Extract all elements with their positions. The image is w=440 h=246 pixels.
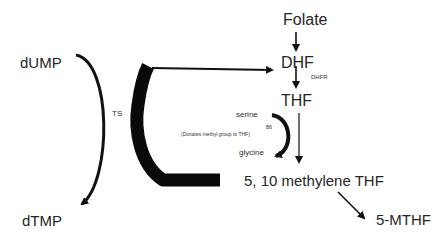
enzyme-dhfr: DHFR [311, 74, 328, 80]
enzyme-ts: TS [112, 110, 122, 118]
folate-pathway-diagram: Folate DHF DHFR THF serine B6 (Donates m… [0, 0, 440, 246]
note-donates-methyl: (Donates methyl group to THF) [181, 132, 250, 137]
node-5-mthf: 5-MTHF [376, 212, 431, 227]
pathway-arrows [0, 0, 440, 246]
node-folate: Folate [283, 12, 327, 28]
arrow-methylene-thf-to-dhf [137, 66, 220, 180]
node-thf: THF [281, 93, 312, 109]
node-methylene-thf: 5, 10 methylene THF [244, 173, 384, 188]
arrow-methylene-to-5mthf [338, 192, 364, 218]
arrow-serine-to-glycine [272, 115, 288, 156]
cofactor-b6: B6 [266, 125, 272, 130]
node-serine: serine [236, 111, 258, 119]
node-glycine: glycine [239, 149, 264, 157]
node-dump: dUMP [20, 55, 62, 70]
arrow-dump-to-dtmp [76, 55, 104, 204]
arrow-ts-to-dhf [152, 68, 272, 70]
node-dtmp: dTMP [22, 213, 62, 228]
node-dhf: DHF [281, 55, 314, 71]
